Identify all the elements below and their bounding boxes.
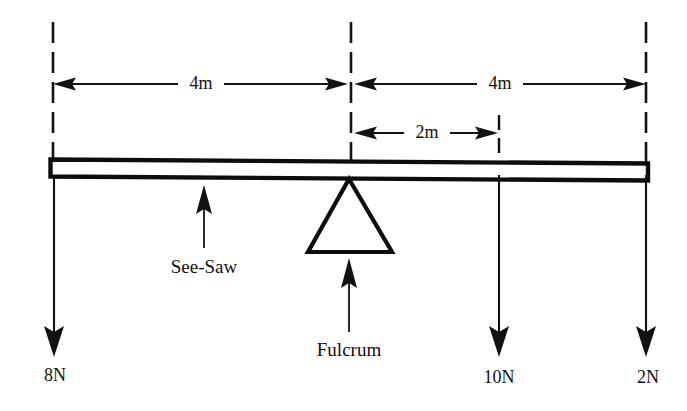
dimension-right-span: 4m — [354, 73, 646, 95]
dimension-left-span: 4m — [53, 73, 348, 95]
callout-see-saw-label: See-Saw — [171, 256, 238, 277]
force-label-10n: 10N — [484, 367, 515, 387]
force-label-8n: 8N — [44, 365, 66, 385]
dimension-left-label: 4m — [189, 73, 212, 93]
dimension-inner-span: 2m — [354, 122, 498, 144]
fulcrum-triangle — [308, 179, 392, 252]
see-saw-diagram: 4m 4m 2m 8N — [0, 0, 687, 411]
callout-see-saw: See-Saw — [171, 185, 238, 277]
guide-lines-group — [53, 22, 646, 176]
callout-fulcrum-label: Fulcrum — [317, 339, 382, 360]
dimension-right-label: 4m — [488, 73, 511, 93]
force-arrow-2n: 2N — [636, 175, 659, 387]
callout-fulcrum: Fulcrum — [317, 258, 382, 360]
force-arrow-8n: 8N — [44, 178, 66, 385]
dimension-inner-label: 2m — [415, 122, 438, 142]
force-arrow-10n: 10N — [484, 175, 515, 387]
force-label-2n: 2N — [637, 367, 659, 387]
diagram-canvas: 4m 4m 2m 8N — [0, 0, 687, 411]
